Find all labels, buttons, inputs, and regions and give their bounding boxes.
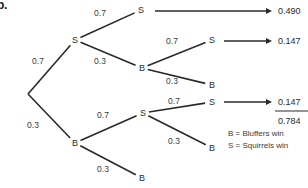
- tree-diagram-canvas: SBSBSBSBSB 0.70.30.70.30.70.30.70.30.70.…: [0, 0, 308, 188]
- branch-probability-br-root-s1: 0.7: [32, 56, 44, 66]
- total-probability-group: 0.784: [275, 111, 308, 126]
- tree-node-n-b1-s2-s3: S: [209, 97, 215, 107]
- legend-item-legend-b: B = Bluffers win: [228, 129, 284, 138]
- tree-node-n-b1: B: [72, 138, 78, 148]
- total-probability-value: 0.784: [278, 116, 301, 126]
- branch-probability-br-b2-b3: 0.3: [166, 76, 178, 86]
- branch-line-br-s1-s2: [80, 13, 134, 38]
- branch-probability-br-b2-s3: 0.7: [166, 36, 178, 46]
- legend-group: B = Bluffers winS = Squirrels win: [228, 129, 288, 150]
- branch-probability-br-s1-b2: 0.3: [94, 56, 106, 66]
- branch-line-br-root-s1: [28, 45, 70, 94]
- branch-probability-br-s2-b3: 0.3: [168, 136, 180, 146]
- branch-probability-br-s2-s3: 0.7: [168, 96, 180, 106]
- branch-line-br-b2-s3: [148, 43, 206, 66]
- tree-node-n-b1-s2-b3: B: [209, 143, 215, 153]
- tree-node-n-b1-s2: S: [140, 108, 146, 118]
- tree-node-n-b1-b2: B: [139, 173, 145, 183]
- outcome-arrow-head-out-1: [266, 8, 272, 14]
- tree-node-n-s1-b2-b3: B: [209, 80, 215, 90]
- outcome-values-group: 0.4900.1470.147: [278, 6, 301, 107]
- branch-probability-br-s1-s2: 0.7: [94, 8, 106, 18]
- outcome-arrow-head-out-3: [266, 99, 272, 105]
- branch-probability-br-root-b1: 0.3: [27, 120, 39, 130]
- branch-probability-br-b1-b2: 0.3: [97, 164, 109, 174]
- branch-line-br-root-b1: [28, 94, 70, 138]
- outcome-arrow-head-out-2: [266, 38, 272, 44]
- legend-item-legend-s: S = Squirrels win: [228, 141, 288, 150]
- branch-probability-br-b1-s2: 0.7: [97, 110, 109, 120]
- branch-lines-group: [28, 13, 206, 175]
- branch-line-br-s1-b2: [81, 42, 136, 65]
- outcome-value-out-1: 0.490: [278, 6, 301, 16]
- outcome-value-out-2: 0.147: [278, 36, 301, 46]
- probability-tree-figure: b. SBSBSBSBSB 0.70.30.70.30.70.30.70.30.…: [0, 0, 308, 188]
- tree-node-n-s1-b2: B: [139, 63, 145, 73]
- tree-node-n-s1-s2: S: [138, 5, 144, 15]
- tree-node-n-s1: S: [72, 35, 78, 45]
- tree-node-n-s1-b2-s3: S: [209, 35, 215, 45]
- outcome-value-out-3: 0.147: [278, 97, 301, 107]
- branch-probability-labels-group: 0.70.30.70.30.70.30.70.30.70.3: [27, 8, 180, 174]
